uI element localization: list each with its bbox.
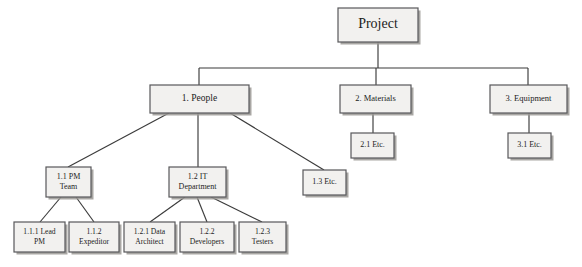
- connector-pm-team-to-expeditor: [76, 197, 94, 222]
- node-label-line: PM: [34, 237, 45, 246]
- wbs-node-it-dept[interactable]: 1.2 ITDepartment: [169, 167, 229, 200]
- node-label-line: 2. Materials: [355, 93, 396, 103]
- wbs-node-testers[interactable]: 1.2.3Testers: [239, 222, 289, 255]
- node-label-line: Architect: [135, 237, 164, 246]
- wbs-node-people-etc[interactable]: 1.3 Etc.: [303, 170, 349, 198]
- connector-people-to-pm-team: [68, 113, 169, 167]
- wbs-node-equip-etc[interactable]: 3.1 Etc.: [508, 133, 554, 161]
- node-label-line: 3. Equipment: [506, 93, 552, 103]
- connector-people-to-etc: [230, 113, 324, 170]
- connector-it-dept-to-testers: [211, 197, 262, 222]
- wbs-node-materials[interactable]: 2. Materials: [340, 85, 414, 116]
- wbs-canvas: Project1. People2. Materials3. Equipment…: [0, 0, 582, 267]
- node-label-line: 2.1 Etc.: [360, 140, 385, 149]
- connector-it-dept-to-developers: [197, 197, 207, 222]
- connector-pm-team-to-lead-pm: [40, 197, 61, 222]
- wbs-node-lead-pm[interactable]: 1.1.1 LeadPM: [14, 222, 68, 255]
- node-label-line: 1.1.1 Lead: [23, 227, 55, 236]
- wbs-node-developers[interactable]: 1.2.2Developers: [180, 222, 237, 255]
- node-label-line: Team: [60, 182, 78, 191]
- wbs-diagram: Project1. People2. Materials3. Equipment…: [0, 0, 582, 267]
- node-label-line: Department: [179, 182, 218, 191]
- node-label-line: 3.1 Etc.: [517, 140, 542, 149]
- wbs-node-mat-etc[interactable]: 2.1 Etc.: [351, 133, 397, 161]
- node-label-line: 1.3 Etc.: [312, 177, 337, 186]
- connector-it-dept-to-data-arch: [150, 197, 185, 222]
- node-label-line: Project: [358, 16, 398, 31]
- wbs-node-data-arch[interactable]: 1.2.1 DataArchitect: [124, 222, 178, 255]
- connector-layer: [40, 42, 529, 222]
- node-label-line: 1.2 IT: [188, 172, 208, 181]
- node-label-line: 1.1.2: [86, 227, 101, 236]
- node-label-line: 1.2.2: [199, 227, 214, 236]
- node-label-line: Developers: [190, 237, 225, 246]
- wbs-node-project[interactable]: Project: [338, 8, 421, 45]
- wbs-node-expeditor[interactable]: 1.1.2Expeditor: [69, 222, 122, 255]
- node-label-line: Expeditor: [79, 237, 109, 246]
- node-label-line: 1. People: [182, 93, 217, 103]
- wbs-node-pm-team[interactable]: 1.1 PMTeam: [46, 167, 94, 200]
- node-label-line: 1.1 PM: [57, 172, 81, 181]
- node-label-line: 1.2.1 Data: [134, 227, 166, 236]
- wbs-node-people[interactable]: 1. People: [150, 85, 252, 116]
- node-layer: Project1. People2. Materials3. Equipment…: [14, 8, 570, 255]
- node-label-line: 1.2.3: [255, 227, 270, 236]
- node-label-line: Testers: [252, 237, 273, 246]
- wbs-node-equipment[interactable]: 3. Equipment: [490, 85, 570, 116]
